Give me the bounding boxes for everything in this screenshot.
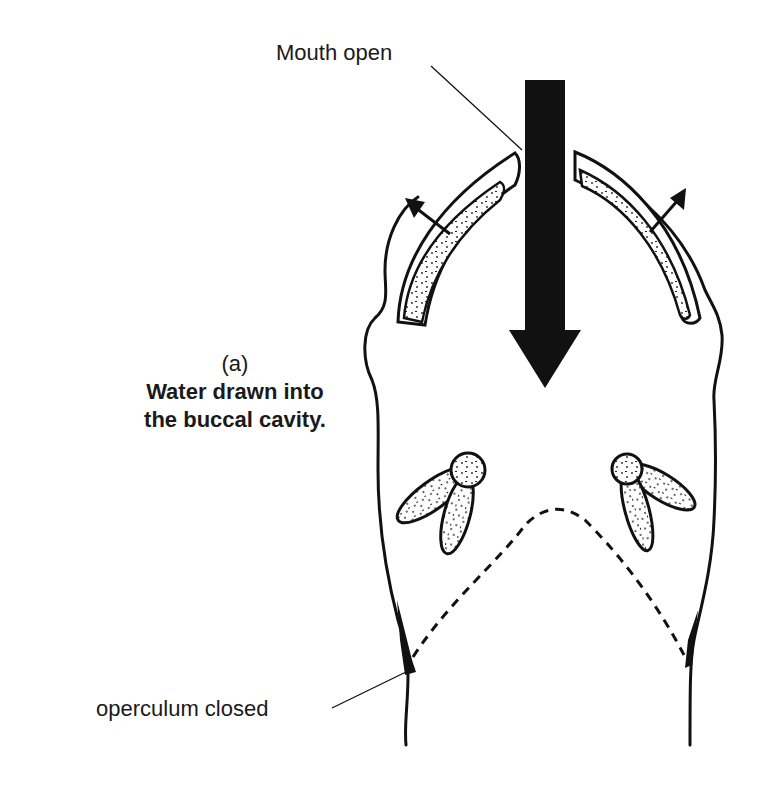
operculum-right-shape [685,610,698,668]
caption-line-2: the buccal cavity. [110,406,360,434]
operculum-leader-line [332,672,406,708]
caption-line-1: Water drawn into [110,378,360,406]
left-gill-arches [390,453,485,557]
water-inflow-arrow-icon [509,80,581,388]
mouth-open-label: Mouth open [276,40,392,66]
right-gill-arches [612,454,701,554]
panel-label: (a) [110,350,360,378]
right-jaw [575,152,700,323]
operculum-left-shape [397,600,416,675]
operculum-closed-label: operculum closed [96,696,268,722]
panel-caption: (a) Water drawn into the buccal cavity. [110,350,360,434]
left-jaw [398,153,520,325]
mouth-leader-line [431,66,522,150]
